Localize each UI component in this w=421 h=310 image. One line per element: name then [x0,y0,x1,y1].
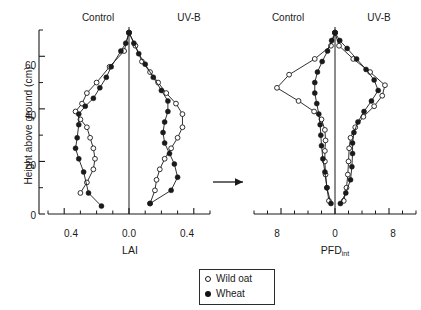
datapoint-wild-oat [346,159,351,164]
plot-lai-panel [39,27,210,214]
datapoint-wheat [76,112,81,117]
legend-label-wild-oat: Wild oat [216,273,252,284]
datapoint-wheat [143,62,148,67]
datapoint-wild-oat [323,138,328,143]
datapoint-wheat [328,201,333,206]
datapoint-wheat [320,156,325,161]
datapoint-wild-oat [275,85,280,90]
datapoint-wheat [109,64,114,69]
datapoint-wheat [76,122,81,127]
datapoint-wheat [325,49,330,54]
datapoint-wheat [343,190,348,195]
datapoint-wheat [151,75,156,80]
legend-label-wheat: Wheat [216,288,245,299]
datapoint-wild-oat [84,125,89,130]
datapoint-wild-oat [94,80,99,85]
datapoint-wheat [123,41,128,46]
datapoint-wheat [314,101,319,106]
datapoint-wild-oat [78,191,83,196]
datapoint-wild-oat [153,188,158,193]
datapoint-wild-oat [345,172,350,177]
datapoint-wheat [355,120,360,125]
datapoint-wheat [329,38,334,43]
datapoint-wheat [354,56,359,61]
datapoint-wheat [376,88,381,93]
datapoint-wild-oat [84,91,89,96]
datapoint-wheat [312,91,317,96]
series-line-control-wild-oat [76,33,129,193]
datapoint-wheat [175,175,180,180]
figure-container: Height above ground (cm) Control UV-B Co… [0,0,421,310]
datapoint-wheat [91,96,96,101]
datapoint-wheat [364,67,369,72]
datapoint-wild-oat [162,156,167,161]
datapoint-wheat [372,77,377,82]
datapoint-wild-oat [312,109,317,114]
datapoint-wheat [362,109,367,114]
series-line-control-wheat [315,33,335,204]
plot-canvas [0,0,421,310]
datapoint-wheat [104,75,109,80]
datapoint-wheat [162,120,167,125]
datapoint-wheat [318,133,323,138]
datapoint-wheat [348,177,353,182]
datapoint-wild-oat [180,112,185,117]
datapoint-wheat [351,130,356,135]
datapoint-wheat [83,104,88,109]
datapoint-wild-oat [322,149,327,154]
datapoint-wild-oat [157,167,162,172]
datapoint-wheat [315,70,320,75]
datapoint-wheat [324,185,329,190]
datapoint-wheat [337,38,342,43]
legend-item-wild-oat: Wild oat [205,273,252,284]
datapoint-wheat [75,135,80,140]
datapoint-wheat [350,151,355,156]
datapoint-wheat [159,88,164,93]
datapoint-wild-oat [91,167,96,172]
datapoint-wheat [86,190,91,195]
datapoint-wheat [169,188,174,193]
datapoint-wild-oat [380,93,385,98]
plot-pfd-panel [254,27,416,214]
datapoint-wheat [97,85,102,90]
open-circle-icon [205,276,211,282]
datapoint-wild-oat [348,135,353,140]
datapoint-wild-oat [169,146,174,151]
datapoint-wheat [73,146,78,151]
filled-circle-icon [205,291,211,297]
datapoint-wheat [333,30,338,35]
datapoint-wheat [349,164,354,169]
datapoint-wheat [369,98,374,103]
datapoint-wheat [165,109,170,114]
datapoint-wheat [350,141,355,146]
datapoint-wheat [165,98,170,103]
datapoint-wild-oat [372,104,377,109]
datapoint-wheat [131,41,136,46]
datapoint-wild-oat [88,135,93,140]
datapoint-wheat [319,143,324,148]
datapoint-wild-oat [287,72,292,77]
datapoint-wheat [322,169,327,174]
datapoint-wild-oat [383,83,388,88]
datapoint-wild-oat [174,101,179,106]
datapoint-wild-oat [312,57,317,62]
datapoint-wild-oat [322,127,327,132]
datapoint-wheat [148,201,153,206]
datapoint-wheat [118,49,123,54]
datapoint-wheat [345,46,350,51]
datapoint-wild-oat [175,135,180,140]
datapoint-wheat [318,122,323,127]
arrow-right-icon [213,178,243,186]
datapoint-wheat [338,201,343,206]
series-line-control-wheat [76,33,129,206]
datapoint-wild-oat [93,156,98,161]
datapoint-wheat [76,156,81,161]
datapoint-wheat [316,112,321,117]
datapoint-wild-oat [91,146,96,151]
datapoint-wheat [162,141,167,146]
datapoint-wheat [99,204,104,209]
datapoint-wild-oat [347,146,352,151]
datapoint-wheat [136,51,141,56]
datapoint-wheat [161,130,166,135]
datapoint-wheat [312,80,317,85]
